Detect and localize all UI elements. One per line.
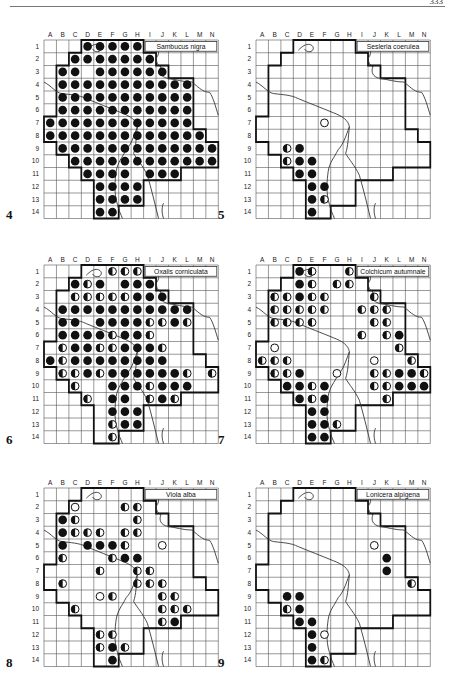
- row-label: 6: [247, 106, 251, 113]
- filled-circle-icon: [58, 528, 67, 537]
- filled-circle-icon: [71, 55, 80, 64]
- column-label: K: [385, 479, 390, 486]
- half-filled-circle-icon: [370, 293, 378, 301]
- filled-circle-icon: [295, 382, 304, 391]
- filled-circle-icon: [121, 395, 130, 404]
- half-filled-circle-icon: [133, 267, 141, 275]
- column-label: G: [122, 479, 127, 486]
- filled-circle-icon: [96, 208, 105, 217]
- filled-circle-icon: [183, 144, 192, 153]
- filled-circle-icon: [58, 516, 67, 525]
- column-label: A: [48, 31, 53, 38]
- column-label: H: [347, 479, 352, 486]
- half-filled-circle-icon: [370, 369, 378, 377]
- column-label: I: [361, 479, 363, 486]
- half-filled-circle-icon: [308, 293, 316, 301]
- half-filled-circle-icon: [158, 618, 166, 626]
- half-filled-circle-icon: [321, 306, 329, 314]
- column-label: A: [48, 256, 53, 263]
- filled-circle-icon: [83, 305, 92, 314]
- filled-circle-icon: [58, 305, 67, 314]
- open-circle-icon: [370, 541, 378, 549]
- row-label: 13: [32, 421, 40, 428]
- filled-circle-icon: [46, 356, 55, 365]
- filled-circle-icon: [71, 68, 80, 77]
- filled-circle-icon: [96, 93, 105, 102]
- filled-circle-icon: [121, 170, 130, 179]
- filled-circle-icon: [96, 331, 105, 340]
- half-filled-circle-icon: [71, 605, 79, 613]
- filled-circle-icon: [382, 554, 391, 563]
- filled-circle-icon: [108, 208, 117, 217]
- row-label: 12: [32, 183, 40, 190]
- filled-circle-icon: [96, 280, 105, 289]
- filled-circle-icon: [71, 305, 80, 314]
- row-label: 12: [244, 408, 252, 415]
- column-label: A: [260, 479, 265, 486]
- filled-circle-icon: [108, 42, 117, 51]
- filled-circle-icon: [183, 382, 192, 391]
- filled-circle-icon: [108, 80, 117, 89]
- column-label: G: [334, 31, 339, 38]
- filled-circle-icon: [158, 305, 167, 314]
- half-filled-circle-icon: [283, 293, 291, 301]
- half-filled-circle-icon: [109, 592, 117, 600]
- column-label: D: [297, 31, 302, 38]
- half-filled-circle-icon: [71, 382, 79, 390]
- filled-circle-icon: [58, 93, 67, 102]
- row-label: 8: [35, 132, 39, 139]
- half-filled-circle-icon: [308, 306, 316, 314]
- column-label: E: [98, 31, 103, 38]
- distribution-map-viola-alba: ABCDEFGHIJKLMN1234567891011121314Viola a…: [20, 476, 220, 676]
- half-filled-circle-icon: [383, 331, 391, 339]
- map-title: Lonicera alpigena: [366, 491, 420, 499]
- filled-circle-icon: [133, 182, 142, 191]
- filled-circle-icon: [308, 208, 317, 217]
- filled-circle-icon: [308, 643, 317, 652]
- distribution-map-sesleria-coerulea: ABCDEFGHIJKLMN1234567891011121314Sesleri…: [232, 28, 432, 228]
- filled-circle-icon: [146, 344, 155, 353]
- filled-circle-icon: [146, 68, 155, 77]
- filled-circle-icon: [96, 182, 105, 191]
- half-filled-circle-icon: [71, 516, 79, 524]
- filled-circle-icon: [133, 369, 142, 378]
- grid-lines: [44, 40, 218, 219]
- filled-circle-icon: [121, 420, 130, 429]
- column-label: C: [73, 479, 78, 486]
- half-filled-circle-icon: [109, 554, 117, 562]
- half-filled-circle-icon: [383, 369, 391, 377]
- half-filled-circle-icon: [271, 293, 279, 301]
- column-label: N: [422, 31, 427, 38]
- half-filled-circle-icon: [345, 267, 353, 275]
- half-filled-circle-icon: [296, 306, 304, 314]
- filled-circle-icon: [146, 144, 155, 153]
- column-label: B: [61, 31, 65, 38]
- filled-circle-icon: [108, 382, 117, 391]
- row-label: 2: [247, 280, 251, 287]
- filled-circle-icon: [108, 305, 117, 314]
- column-label: D: [297, 479, 302, 486]
- filled-circle-icon: [96, 318, 105, 327]
- row-label: 14: [32, 208, 40, 215]
- filled-circle-icon: [320, 395, 329, 404]
- row-label: 13: [32, 644, 40, 651]
- distribution-map-sambucus-nigra: ABCDEFGHIJKLMN1234567891011121314Sambucu…: [20, 28, 220, 228]
- row-label: 11: [32, 395, 39, 402]
- half-filled-circle-icon: [158, 605, 166, 613]
- filled-circle-icon: [96, 55, 105, 64]
- row-label: 5: [247, 542, 251, 549]
- filled-circle-icon: [308, 433, 317, 442]
- half-filled-circle-icon: [121, 293, 129, 301]
- filled-circle-icon: [308, 170, 317, 179]
- river-3: [346, 575, 371, 667]
- filled-circle-icon: [133, 144, 142, 153]
- filled-circle-icon: [146, 280, 155, 289]
- half-filled-circle-icon: [84, 293, 92, 301]
- half-filled-circle-icon: [121, 541, 129, 549]
- column-label: J: [161, 256, 164, 263]
- row-label: 10: [32, 382, 40, 389]
- river-2: [327, 352, 349, 444]
- row-label: 2: [35, 55, 39, 62]
- filled-circle-icon: [83, 80, 92, 89]
- half-filled-circle-icon: [121, 643, 129, 651]
